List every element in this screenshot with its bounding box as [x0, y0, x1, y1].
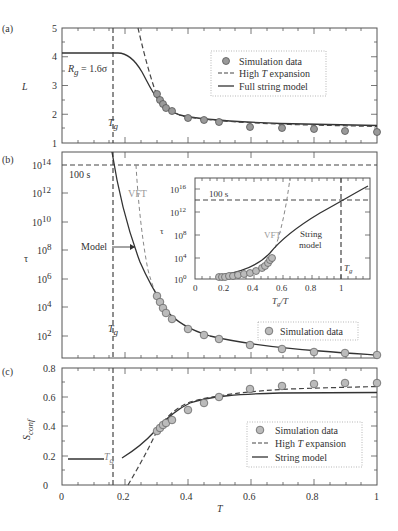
svg-text:0: 0 [59, 491, 64, 502]
inset-data-points [216, 255, 276, 281]
svg-text:1010: 1010 [32, 214, 52, 228]
inset-model-label: model [299, 240, 322, 250]
svg-text:102: 102 [37, 328, 52, 342]
100s-label: 100 s [69, 169, 91, 180]
tg-label: Tg [104, 451, 115, 465]
ytick: 4 [52, 51, 57, 62]
inset-string-model-curve [222, 186, 368, 275]
svg-text:1016: 1016 [170, 183, 187, 195]
panel-c: (c) 0.8 0.6 0.4 0.2 0 Sconf 0 0.2 0.4 0.… [2, 363, 381, 514]
svg-text:Simulation data: Simulation data [280, 326, 344, 337]
svg-text:100: 100 [174, 273, 187, 285]
y-axis-label-L: L [21, 81, 28, 92]
x-tick-labels: 0 0.2 0.4 0.6 0.8 1 [59, 491, 379, 502]
svg-text:High T expansion: High T expansion [275, 438, 346, 449]
svg-text:0.4: 0.4 [43, 421, 56, 432]
svg-text:1012: 1012 [170, 206, 187, 218]
svg-text:0.6: 0.6 [243, 491, 256, 502]
svg-text:1012: 1012 [32, 185, 51, 199]
model-label: Model [81, 241, 107, 252]
svg-text:0.2: 0.2 [43, 451, 56, 462]
ytick: 3 [52, 80, 57, 91]
svg-text:1: 1 [374, 491, 379, 502]
panel-b-label: (b) [2, 154, 14, 166]
svg-text:Simulation data: Simulation data [239, 56, 303, 67]
inset-plot: 1016 1012 108 104 100 τ 0 0.2 0.4 0.6 0.… [160, 178, 370, 308]
svg-text:0.2: 0.2 [218, 283, 229, 293]
inset-vft-label: VFT [264, 230, 282, 240]
inset-string-label: String [300, 229, 323, 239]
ytick: 1 [52, 138, 57, 149]
y-tick-labels: 0.8 0.6 0.4 0.2 0 [43, 363, 56, 491]
vft-label: VFT [128, 188, 147, 199]
figure: (a) 5 4 3 2 1 L Tg Rg = 1.6σ [0, 0, 398, 531]
svg-text:Simulation data: Simulation data [275, 425, 339, 436]
svg-text:108: 108 [174, 229, 187, 241]
svg-text:104: 104 [37, 299, 52, 313]
inset-x-ticklabels: 0 0.2 0.4 0.6 0.8 1 [193, 283, 344, 293]
inset-tg-label: Tg [344, 263, 353, 275]
inset-x-label: Tg/T [272, 296, 289, 308]
svg-text:0.4: 0.4 [247, 283, 259, 293]
inset-100s-label: 100 s [209, 189, 229, 199]
legend-a: Simulation data High T expansion Full st… [211, 51, 326, 96]
svg-text:1014: 1014 [32, 157, 52, 171]
inset-y-label: τ [160, 226, 164, 236]
svg-text:0.8: 0.8 [43, 363, 56, 374]
x-axis-label-T: T [217, 503, 224, 514]
legend-c: Simulation data High T expansion String … [247, 422, 362, 467]
y-axis-label-tau: τ [24, 253, 28, 264]
ytick: 5 [52, 23, 57, 34]
rg-label: Rg = 1.6σ [67, 63, 108, 77]
legend-b: Simulation data [258, 322, 358, 340]
panel-a-label: (a) [2, 23, 13, 35]
svg-text:0: 0 [43, 480, 48, 491]
y-tick-labels: 1014 1012 1010 108 106 104 102 [32, 157, 52, 342]
svg-text:0.6: 0.6 [276, 283, 288, 293]
y-axis-label-sconf: Sconf [21, 418, 35, 440]
svg-text:104: 104 [174, 252, 187, 264]
svg-text:0.6: 0.6 [43, 392, 56, 403]
panel-c-label: (c) [2, 366, 13, 378]
svg-text:108: 108 [37, 242, 52, 256]
panel-a: (a) 5 4 3 2 1 L Tg Rg = 1.6σ [2, 23, 381, 149]
svg-text:0.4: 0.4 [180, 491, 193, 502]
simulation-data-points [154, 91, 381, 136]
svg-text:High T expansion: High T expansion [239, 68, 310, 79]
tg-label: Tg [108, 117, 119, 131]
svg-text:0.8: 0.8 [306, 491, 319, 502]
svg-text:0.8: 0.8 [305, 283, 317, 293]
svg-text:0.2: 0.2 [117, 491, 130, 502]
panel-b: (b) 1014 1012 1010 108 106 104 102 τ 100… [2, 152, 381, 359]
svg-text:0: 0 [193, 283, 198, 293]
svg-text:1: 1 [339, 283, 344, 293]
svg-text:Full string model: Full string model [239, 81, 308, 92]
svg-text:String model: String model [275, 452, 327, 463]
svg-text:106: 106 [37, 271, 52, 285]
ytick: 2 [52, 109, 57, 120]
tg-label: Tg [108, 323, 119, 337]
